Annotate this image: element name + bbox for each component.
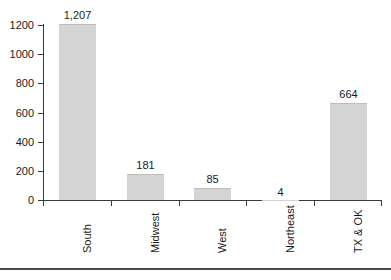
category-label-tx-ok: TX & OK xyxy=(353,210,364,253)
bar-value-tx-ok: 664 xyxy=(318,89,379,100)
x-tick-3 xyxy=(246,201,247,206)
y-tick-label-0: 0 xyxy=(28,195,34,206)
bottom-divider xyxy=(0,268,391,270)
bar-value-midwest: 181 xyxy=(115,160,176,171)
category-label-midwest: Midwest xyxy=(150,213,161,253)
y-tick-600 xyxy=(38,113,43,114)
bar-value-west: 85 xyxy=(182,174,243,185)
x-tick-1 xyxy=(111,201,112,206)
bar-chart-figure: 1200 1000 800 600 400 200 0 1,207 181 85… xyxy=(0,0,391,280)
y-tick-label-200: 200 xyxy=(16,166,34,177)
y-tick-label-600: 600 xyxy=(16,108,34,119)
y-tick-label-1200: 1200 xyxy=(10,20,34,31)
y-axis-line xyxy=(43,24,44,201)
y-tick-200 xyxy=(38,171,43,172)
category-label-west: West xyxy=(217,228,228,253)
category-label-northeast: Northeast xyxy=(285,205,296,253)
bar-northeast xyxy=(262,200,299,201)
chart-title xyxy=(8,0,368,3)
bar-tx-ok xyxy=(330,103,367,200)
bar-value-south: 1,207 xyxy=(47,10,108,21)
bar-south xyxy=(59,24,96,200)
x-tick-5 xyxy=(381,201,382,206)
y-tick-label-800: 800 xyxy=(16,78,34,89)
bar-value-northeast: 4 xyxy=(250,187,311,198)
y-tick-label-1000: 1000 xyxy=(10,49,34,60)
y-tick-label-400: 400 xyxy=(16,137,34,148)
y-tick-1000 xyxy=(38,54,43,55)
y-tick-800 xyxy=(38,83,43,84)
y-tick-1200 xyxy=(38,25,43,26)
category-label-south: South xyxy=(82,224,93,253)
bar-midwest xyxy=(127,174,164,200)
bar-west xyxy=(194,188,231,200)
x-tick-4 xyxy=(314,201,315,206)
x-tick-0 xyxy=(43,201,44,206)
y-tick-400 xyxy=(38,142,43,143)
x-tick-2 xyxy=(179,201,180,206)
x-axis-line xyxy=(43,200,382,201)
